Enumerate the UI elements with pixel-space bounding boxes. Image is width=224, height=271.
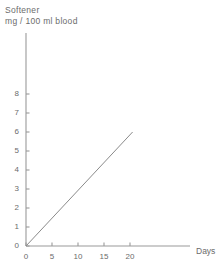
y-tick-label: 1 — [5, 222, 19, 231]
axes-group — [26, 33, 190, 246]
y-tick-label: 4 — [5, 165, 19, 174]
x-tick-label: 10 — [70, 252, 86, 261]
chart-container: Softener mg / 100 ml blood Days 01234567… — [0, 0, 224, 271]
x-tick-label: 20 — [122, 252, 138, 261]
x-tick-label: 15 — [96, 252, 112, 261]
y-tick-label: 2 — [5, 203, 19, 212]
y-tick-label: 6 — [5, 127, 19, 136]
y-tick-label: 5 — [5, 146, 19, 155]
y-tick-label: 8 — [5, 89, 19, 98]
x-tick-label: 5 — [44, 252, 60, 261]
data-line — [26, 132, 133, 246]
x-tick-label: 0 — [18, 252, 34, 261]
data-series-group — [26, 132, 133, 246]
y-tick-label: 3 — [5, 184, 19, 193]
y-tick-label: 7 — [5, 108, 19, 117]
y-tick-label: 0 — [5, 241, 19, 250]
plot-svg — [0, 0, 224, 271]
